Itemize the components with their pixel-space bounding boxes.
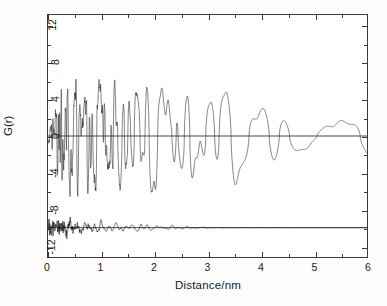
curve-canvas (48, 15, 367, 257)
x-tick-label: 1 (98, 261, 104, 273)
x-tick-label: 0 (44, 261, 50, 273)
y-tick-label: 0 (49, 133, 61, 139)
series-gr-curve (48, 79, 367, 196)
x-tick-label: 5 (312, 261, 318, 273)
x-axis-title: Distance/nm (175, 279, 241, 291)
y-axis-title: G(r) (2, 116, 14, 136)
chart-figure: 0123456 -12-8-404812 Distance/nm G(r) (0, 0, 387, 306)
x-tick-label: 3 (205, 261, 211, 273)
y-tick-label: -8 (47, 205, 59, 214)
x-tick-label: 4 (258, 261, 264, 273)
y-tick-label: -4 (47, 168, 59, 177)
x-tick-label: 2 (151, 261, 157, 273)
x-tick-label: 6 (365, 261, 371, 273)
y-tick-label: 12 (46, 19, 58, 31)
y-tick-label: -12 (44, 239, 56, 254)
y-tick-label: 4 (49, 96, 61, 102)
y-tick-label: 8 (49, 59, 61, 65)
plot-area (47, 14, 368, 258)
